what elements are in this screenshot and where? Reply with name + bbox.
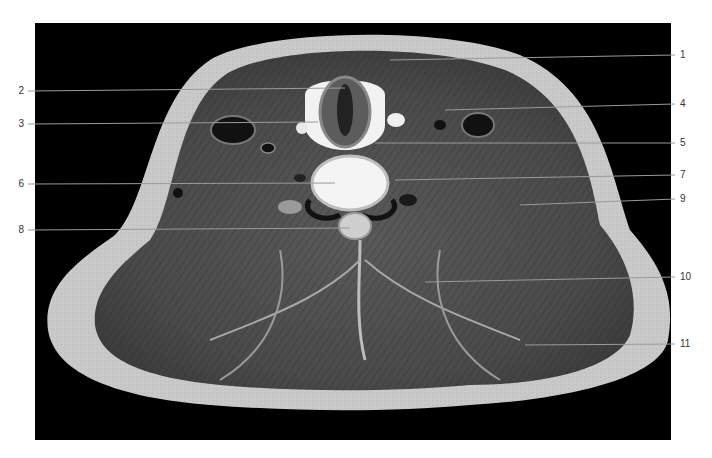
label-7: 7 <box>680 169 686 181</box>
figure-caption-cropped <box>150 452 570 458</box>
label-5: 5 <box>680 137 686 149</box>
label-1: 1 <box>680 49 686 61</box>
label-2: 2 <box>4 85 24 97</box>
label-6: 6 <box>4 178 24 190</box>
label-4: 4 <box>680 98 686 110</box>
label-8: 8 <box>4 224 24 236</box>
label-9: 9 <box>680 193 686 205</box>
cross-section-illustration <box>35 23 671 440</box>
label-3: 3 <box>4 118 24 130</box>
label-11: 11 <box>680 338 690 350</box>
label-10: 10 <box>680 271 691 283</box>
cross-section-image <box>35 23 671 440</box>
